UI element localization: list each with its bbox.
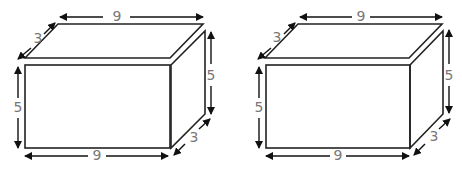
label-left-height: 5 <box>255 99 264 115</box>
arrow-bottom-depth <box>414 144 425 155</box>
label-top-length: 9 <box>357 8 366 24</box>
arrow-bottom-depth <box>174 144 185 155</box>
front-face <box>266 65 410 148</box>
top-face <box>25 24 203 58</box>
prism-left: 9 3 5 5 9 3 <box>14 8 216 163</box>
front-face <box>25 65 170 148</box>
label-top-depth: 3 <box>34 30 43 46</box>
label-bottom-depth: 3 <box>430 128 439 144</box>
label-bottom-length: 9 <box>334 147 343 163</box>
prism-right: 9 3 5 5 9 3 <box>255 8 454 163</box>
label-right-height: 5 <box>445 67 454 83</box>
right-face <box>171 31 205 148</box>
diagram-canvas: 9 3 5 5 9 3 9 3 5 5 9 <box>0 0 462 169</box>
label-bottom-depth: 3 <box>190 129 199 145</box>
label-left-height: 5 <box>14 99 23 115</box>
label-top-depth: 3 <box>273 29 282 45</box>
top-face <box>265 24 442 58</box>
label-top-length: 9 <box>113 8 122 24</box>
label-right-height: 5 <box>207 67 216 83</box>
label-bottom-length: 9 <box>93 147 102 163</box>
